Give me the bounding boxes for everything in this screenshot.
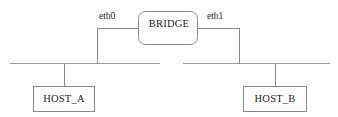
link-eth1-riser bbox=[198, 29, 240, 64]
node-host-b-label: HOST_B bbox=[243, 94, 307, 105]
network-diagram-canvas: BRIDGE HOST_A HOST_B eth0 eth1 bbox=[0, 0, 338, 117]
interface-label-eth1: eth1 bbox=[207, 12, 223, 22]
node-bridge-label: BRIDGE bbox=[140, 19, 198, 30]
link-eth0-riser bbox=[98, 29, 139, 64]
node-host-a-label: HOST_A bbox=[33, 94, 95, 105]
interface-label-eth0: eth0 bbox=[99, 12, 115, 22]
